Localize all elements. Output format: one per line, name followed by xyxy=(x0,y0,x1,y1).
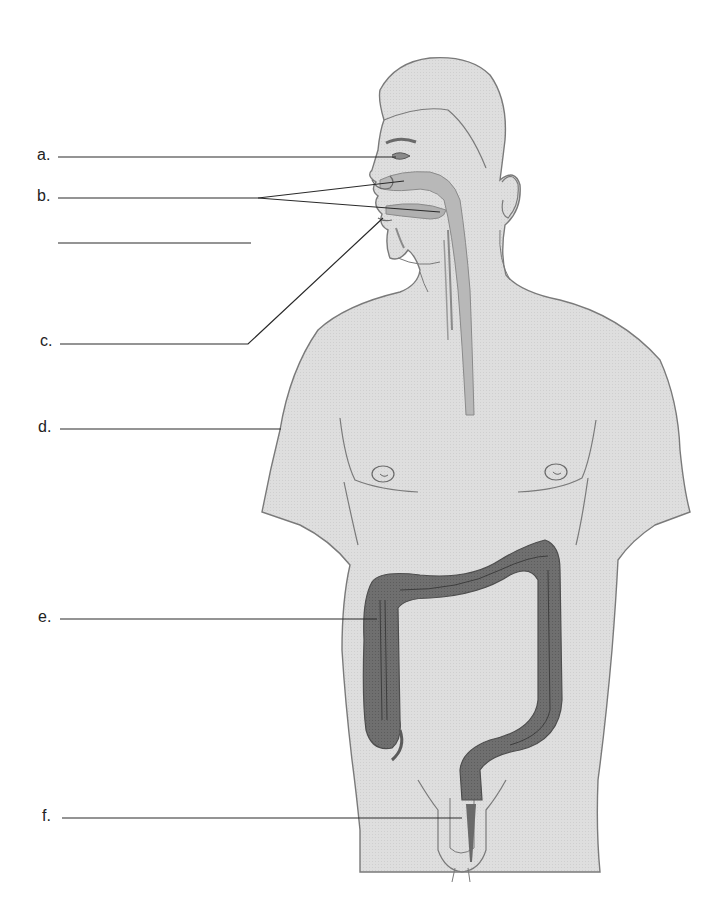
label-d: d. xyxy=(38,419,51,435)
label-a: a. xyxy=(37,147,50,163)
label-e: e. xyxy=(38,609,51,625)
label-f: f. xyxy=(42,808,51,824)
anatomy-diagram: a. b. c. d. e. f. xyxy=(0,0,708,902)
label-b: b. xyxy=(37,188,50,204)
label-c: c. xyxy=(40,333,52,349)
